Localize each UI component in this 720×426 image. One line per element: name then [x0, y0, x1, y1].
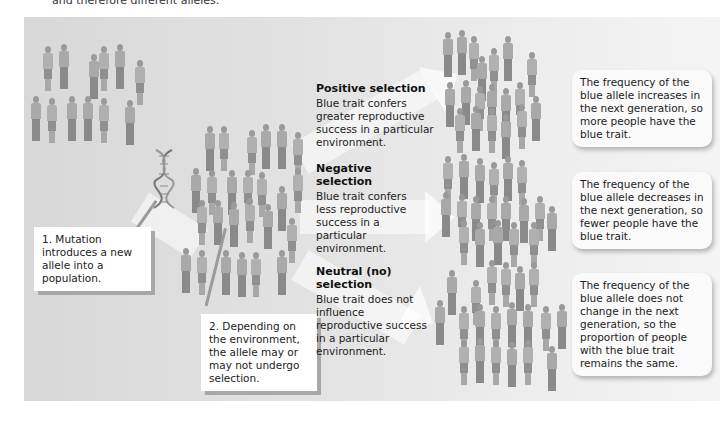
person-figure-icon — [474, 222, 486, 268]
person-figure-icon — [490, 340, 502, 386]
person-figure-icon — [196, 250, 208, 296]
person-figure-icon — [114, 44, 126, 90]
neutral-result-text: The frequency of the blue allele does no… — [580, 279, 690, 369]
person-figure-icon — [42, 46, 54, 92]
person-figure-icon — [46, 98, 58, 144]
positive-result-text: The frequency of the blue allele increas… — [580, 76, 703, 140]
person-figure-icon — [228, 202, 240, 248]
person-figure-icon — [180, 248, 192, 294]
person-figure-icon — [440, 192, 452, 238]
positive-selection-desc: Blue trait confers greater reproductive … — [316, 97, 448, 149]
person-figure-icon — [522, 340, 534, 386]
person-figure-icon — [530, 96, 542, 142]
person-figure-icon — [458, 340, 470, 386]
person-figure-icon — [250, 252, 262, 298]
person-figure-icon — [196, 200, 208, 246]
person-figure-icon — [98, 46, 110, 92]
person-figure-icon — [276, 124, 288, 170]
positive-result-box: The frequency of the blue allele increas… — [572, 70, 712, 147]
negative-selection-title: Negative selection — [316, 162, 428, 188]
step2-text: 2. Depending on the environment, the all… — [209, 320, 300, 384]
person-figure-icon — [58, 44, 70, 90]
step2-callout: 2. Depending on the environment, the all… — [201, 314, 317, 391]
person-figure-icon — [66, 96, 78, 142]
neutral-selection-title: Neutral (no) selection — [316, 265, 428, 291]
person-figure-icon — [546, 206, 558, 252]
person-figure-icon — [486, 108, 498, 154]
person-figure-icon — [456, 30, 468, 76]
positive-selection-label: Positive selection Blue trait confers gr… — [316, 82, 448, 149]
negative-result-text: The frequency of the blue allele decreas… — [580, 178, 704, 242]
person-figure-icon — [516, 104, 528, 150]
person-figure-icon — [218, 126, 230, 172]
person-figure-icon — [500, 114, 512, 160]
step1-text: 1. Mutation introduces a new allele into… — [42, 233, 132, 284]
person-figure-icon — [486, 260, 498, 306]
person-figure-icon — [204, 126, 216, 172]
person-figure-icon — [30, 96, 42, 142]
person-figure-icon — [528, 262, 540, 308]
negative-selection-label: Negative selection Blue trait confers le… — [316, 162, 428, 255]
person-figure-icon — [556, 304, 568, 350]
caption-fragment: and therefore different alleles. — [52, 0, 219, 7]
neutral-selection-desc: Blue trait does not influence reproducti… — [316, 293, 428, 358]
person-figure-icon — [502, 36, 514, 82]
negative-selection-desc: Blue trait confers less reproductive suc… — [316, 190, 428, 255]
person-figure-icon — [526, 52, 538, 98]
person-figure-icon — [442, 32, 454, 78]
step1-callout: 1. Mutation introduces a new allele into… — [34, 227, 151, 291]
person-figure-icon — [220, 250, 232, 296]
person-figure-icon — [474, 338, 486, 384]
person-figure-icon — [292, 168, 304, 214]
person-figure-icon — [454, 108, 466, 154]
person-figure-icon — [458, 220, 470, 266]
negative-result-box: The frequency of the blue allele decreas… — [572, 172, 712, 249]
person-figure-icon — [276, 250, 288, 296]
person-figure-icon — [236, 252, 248, 298]
person-figure-icon — [506, 342, 518, 388]
person-figure-icon — [470, 106, 482, 152]
neutral-result-box: The frequency of the blue allele does no… — [572, 273, 712, 376]
person-figure-icon — [546, 346, 558, 392]
person-figure-icon — [124, 100, 136, 146]
person-figure-icon — [98, 98, 110, 144]
person-figure-icon — [446, 270, 458, 316]
person-figure-icon — [244, 198, 256, 244]
neutral-selection-label: Neutral (no) selection Blue trait does n… — [316, 265, 428, 358]
person-figure-icon — [82, 96, 94, 142]
person-figure-icon — [262, 204, 274, 250]
positive-selection-title: Positive selection — [316, 82, 448, 95]
person-figure-icon — [434, 300, 446, 346]
person-figure-icon — [260, 124, 272, 170]
